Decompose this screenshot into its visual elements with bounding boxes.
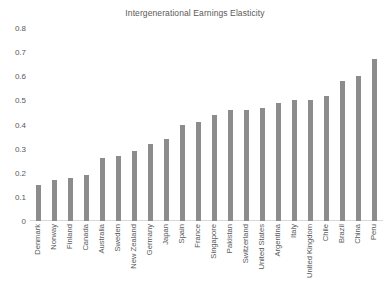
bar-slot xyxy=(158,28,174,221)
bar[interactable] xyxy=(244,110,249,221)
bar[interactable] xyxy=(116,156,121,221)
x-axis-tick-label: Japan xyxy=(162,224,170,245)
x-axis-tick-label: France xyxy=(194,224,202,248)
bar-slot xyxy=(206,28,222,221)
x-label-slot: Argentina xyxy=(270,222,286,306)
x-label-slot: Norway xyxy=(46,222,62,306)
bar-slot xyxy=(78,28,94,221)
x-axis-tick-label: Spain xyxy=(178,224,186,243)
bar-slot xyxy=(190,28,206,221)
y-axis-tick-label: 0.1 xyxy=(15,192,26,201)
bar[interactable] xyxy=(196,122,201,221)
bar-slot xyxy=(366,28,382,221)
bar[interactable] xyxy=(276,103,281,221)
bar-slot xyxy=(286,28,302,221)
x-label-slot: Spain xyxy=(174,222,190,306)
chart-title: Intergenerational Earnings Elasticity xyxy=(0,8,390,18)
bar[interactable] xyxy=(292,100,297,221)
y-axis-tick-label: 0.6 xyxy=(15,72,26,81)
bar-slot xyxy=(110,28,126,221)
bar-slot xyxy=(270,28,286,221)
y-axis-tick-label: 0.8 xyxy=(15,24,26,33)
y-axis-tick-label: 0 xyxy=(22,217,26,226)
bar-slot xyxy=(350,28,366,221)
bar-slot xyxy=(94,28,110,221)
bar-slot xyxy=(302,28,318,221)
x-label-slot: Denmark xyxy=(30,222,46,306)
x-axis-tick-label: Singapore xyxy=(210,224,218,259)
x-label-slot: Singapore xyxy=(206,222,222,306)
bar-slot xyxy=(174,28,190,221)
bar[interactable] xyxy=(68,178,73,221)
bar-slot xyxy=(318,28,334,221)
x-label-slot: New Zealand xyxy=(126,222,142,306)
bar[interactable] xyxy=(308,100,313,221)
x-axis-tick-label: Argentina xyxy=(274,224,282,257)
x-axis-tick-label: Sweden xyxy=(114,224,122,251)
bar-slot xyxy=(30,28,46,221)
bar[interactable] xyxy=(340,81,345,221)
x-axis-tick-label: Pakistan xyxy=(226,224,234,253)
bar-slot xyxy=(46,28,62,221)
x-axis-tick-label: Canada xyxy=(82,224,90,251)
x-axis-tick-label: Peru xyxy=(370,224,378,240)
bar-slot xyxy=(334,28,350,221)
x-axis-tick-label: Denmark xyxy=(34,224,42,255)
x-label-slot: Chile xyxy=(318,222,334,306)
x-axis-tick-label: Finland xyxy=(66,224,74,249)
x-label-slot: Japan xyxy=(158,222,174,306)
y-axis-tick-label: 0.7 xyxy=(15,48,26,57)
x-axis-tick-label: China xyxy=(354,224,362,244)
bar-slot xyxy=(62,28,78,221)
bar[interactable] xyxy=(356,76,361,221)
x-label-slot: Switzerland xyxy=(238,222,254,306)
bar[interactable] xyxy=(372,59,377,221)
x-label-slot: United Kingdom xyxy=(302,222,318,306)
x-label-slot: Italy xyxy=(286,222,302,306)
x-label-slot: Brazil xyxy=(334,222,350,306)
bar[interactable] xyxy=(52,180,57,221)
bar-slot xyxy=(254,28,270,221)
x-label-slot: Sweden xyxy=(110,222,126,306)
y-axis: 00.10.20.30.40.50.60.70.8 xyxy=(0,28,30,221)
x-axis-tick-label: Germany xyxy=(146,224,154,255)
x-label-slot: Canada xyxy=(78,222,94,306)
y-axis-tick-label: 0.4 xyxy=(15,120,26,129)
bar[interactable] xyxy=(148,144,153,221)
bar[interactable] xyxy=(180,125,185,222)
x-axis-tick-label: United States xyxy=(258,224,266,270)
x-axis-tick-label: Italy xyxy=(290,224,298,238)
bar[interactable] xyxy=(84,175,89,221)
bar-slot xyxy=(126,28,142,221)
bar[interactable] xyxy=(100,158,105,221)
bar-slot xyxy=(142,28,158,221)
bar-slot xyxy=(222,28,238,221)
x-label-slot: Pakistan xyxy=(222,222,238,306)
x-axis-tick-label: Australia xyxy=(98,224,106,254)
plot-area xyxy=(30,28,382,221)
x-label-slot: Australia xyxy=(94,222,110,306)
x-axis-tick-label: Chile xyxy=(322,224,330,241)
bar-slot xyxy=(238,28,254,221)
x-label-slot: Finland xyxy=(62,222,78,306)
bar[interactable] xyxy=(164,139,169,221)
bar-series xyxy=(30,28,382,221)
x-label-slot: Peru xyxy=(366,222,382,306)
x-label-slot: United States xyxy=(254,222,270,306)
x-axis-tick-label: Switzerland xyxy=(242,224,250,263)
bar[interactable] xyxy=(228,110,233,221)
x-label-slot: Germany xyxy=(142,222,158,306)
x-label-slot: France xyxy=(190,222,206,306)
x-axis-tick-label: New Zealand xyxy=(130,224,138,269)
x-axis-labels: DenmarkNorwayFinlandCanadaAustraliaSwede… xyxy=(30,222,382,306)
x-axis-tick-label: United Kingdom xyxy=(306,224,314,278)
bar[interactable] xyxy=(212,115,217,221)
bar[interactable] xyxy=(36,185,41,221)
x-axis-tick-label: Brazil xyxy=(338,224,346,243)
y-axis-tick-label: 0.5 xyxy=(15,96,26,105)
bar[interactable] xyxy=(132,151,137,221)
bar[interactable] xyxy=(324,96,329,221)
bar[interactable] xyxy=(260,108,265,221)
y-axis-tick-label: 0.2 xyxy=(15,168,26,177)
x-label-slot: China xyxy=(350,222,366,306)
